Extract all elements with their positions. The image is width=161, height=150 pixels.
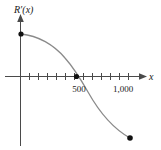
y-axis-arrow-icon (17, 14, 24, 22)
figure-container: 500 1,000 R′(x) x (0, 0, 161, 150)
x-tick-label-1000: 1,000 (113, 84, 134, 94)
curve-left-endpoint-dot (18, 31, 23, 36)
curve-right-endpoint-dot (127, 135, 133, 141)
x-axis-label: x (148, 71, 154, 82)
curve-x-intercept-dot (74, 74, 79, 79)
x-axis-arrow-icon (139, 73, 147, 80)
graph-canvas: 500 1,000 R′(x) x (0, 0, 161, 150)
x-tick-label-500: 500 (72, 84, 86, 94)
y-axis-label: R′(x) (13, 4, 34, 16)
